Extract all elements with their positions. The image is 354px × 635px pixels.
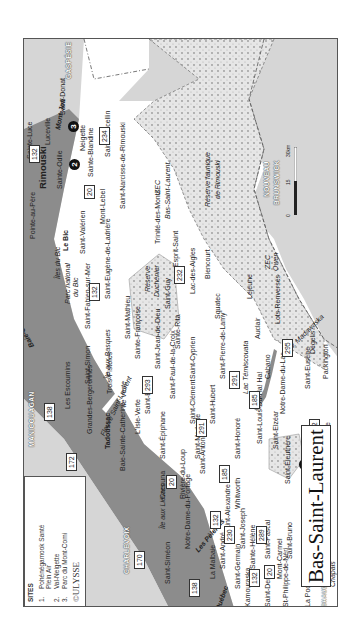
town-saint-elzear: Saint-Elzéar xyxy=(272,411,279,449)
town-baie-sainte-catherine: Baie-Sainte-Catherine xyxy=(119,402,126,471)
town-esprit-saint: Esprit-Saint xyxy=(172,231,179,267)
legend-item-3: Parc du Mont-Comi xyxy=(62,533,69,589)
route-shield-230: 230 xyxy=(224,526,235,544)
scale-tick-30: 30km xyxy=(286,145,291,157)
route-shield-289-b: 289 xyxy=(256,526,267,544)
route-shield-291-b: 291 xyxy=(229,371,240,389)
town-saint-eugene: Saint-Eugène-de-Ladrière xyxy=(104,218,111,299)
route-shield-20: 20 xyxy=(84,185,95,199)
town-biencourt: Biencourt xyxy=(204,249,211,279)
route-shield-234: 234 xyxy=(99,127,110,145)
town-saint-guy: Saint-Guy xyxy=(164,278,171,309)
scale-bar xyxy=(294,147,297,215)
town-saint-paul: Saint-Paul-de-la-Croix xyxy=(169,330,176,399)
town-neigette: Neigette xyxy=(79,125,86,151)
town-saint-antonin: Saint-Antonin xyxy=(199,432,206,474)
town-tadoussac: Tadoussac xyxy=(104,413,111,449)
town-les-escoumins: Les Escoumins xyxy=(64,362,71,409)
town-trois-pistoles: Trois-Pistoles xyxy=(106,352,113,394)
route-shield-20-c: 20 xyxy=(264,565,275,579)
region-label-gaspesie: GASPÉSIE xyxy=(66,42,73,79)
town-packington: Packington xyxy=(322,344,329,379)
town-sainte-blandine: Sainte-Blandine xyxy=(87,128,94,177)
town-trinite: Trinité-des-Monts xyxy=(154,190,161,244)
route-shield-132-b: 132 xyxy=(89,283,100,301)
town-sainte-helene: Sainte-Hélène xyxy=(249,525,256,569)
route-shield-132-d: 132 xyxy=(249,569,260,587)
town-saint-germain: Saint-Germain xyxy=(234,544,241,589)
route-shield-138-b: 138 xyxy=(189,579,200,597)
town-notre-dame-du-lac: Notre-Dame-du-Lac xyxy=(279,352,286,414)
reserve-label-parc-bic-2: du Bic xyxy=(72,278,79,297)
town-saint-donat: Saint-Donat xyxy=(59,78,66,115)
reserve-label-zec-owen-2: Owen xyxy=(272,253,279,271)
town-la-malbaie: La Malbaie xyxy=(209,545,216,579)
scale-tick-0: 0 xyxy=(286,214,291,217)
route-shield-132-c: 132 xyxy=(210,511,221,529)
town-sainte-odile: Sainte-Odile xyxy=(56,150,63,189)
town-saint-jean-de-dieu: Saint-Jean-de-Dieu xyxy=(154,309,161,369)
town-degelis: Dégelis xyxy=(309,331,316,354)
town-st-philippe: St-Philippe-de-Néri xyxy=(282,548,289,607)
town-l-isle-verte: L'Isle-Verte xyxy=(134,399,141,434)
route-shield-170: 170 xyxy=(134,551,145,569)
legend-item-2: Val-Neigette xyxy=(54,554,61,589)
route-shield-232: 232 xyxy=(174,266,185,284)
route-shield-185: 185 xyxy=(219,465,230,483)
town-whitworth: Whitworth xyxy=(234,478,241,509)
map-title: Bas-Saint-Laurent xyxy=(303,429,329,583)
region-label-nouveau-brunswick-2: BRUNSWICK xyxy=(274,160,281,205)
reserve-label-zec-owen: ZEC xyxy=(264,255,271,269)
town-saint-cyprien: Saint-Cyprien xyxy=(189,337,196,379)
region-label-nouveau-brunswick: NOUVEAU xyxy=(264,161,271,197)
water-label-iles-du-bic: Îles du Bic xyxy=(54,247,61,279)
reserve-label-rf-rimouski-2: de Rimouski xyxy=(214,160,221,199)
town-le-bic: Le Bic xyxy=(62,230,69,251)
town-pointe-au-pere: Pointe-au-Père xyxy=(29,192,36,239)
legend-heading: SITES xyxy=(28,583,35,602)
town-saint-valerien: Saint-Valérien xyxy=(79,211,86,254)
town-lejeune: Lejeune xyxy=(246,274,253,299)
town-lots-renverses: Lots-Renversés xyxy=(274,275,281,324)
town-notre-dame-du-portage: Notre-Dame-du-Portage xyxy=(184,474,191,549)
reserve-label-parc-bic: Parc national xyxy=(64,263,71,304)
legend-num-2: 2. xyxy=(54,597,61,602)
legend-item-1b: Plein Air xyxy=(46,565,53,589)
route-shield-20-b: 20 xyxy=(166,475,177,489)
sites-legend: SITES 1. Pohénégamook Santé Plein Air 2.… xyxy=(24,476,86,607)
town-saint-joseph: Saint-Joseph xyxy=(239,508,246,549)
town-saint-hubert: Saint-Hubert xyxy=(209,385,216,424)
route-shield-291: 291 xyxy=(196,419,207,437)
water-label-lac-temiscouata: Lac Témiscouata xyxy=(242,341,249,394)
town-saint-narcisse: Saint-Narcisse-de-Rimouski xyxy=(119,122,126,209)
legend-num-1: 1. xyxy=(39,597,46,602)
town-luceville: Luceville xyxy=(44,118,51,145)
route-shield-295: 295 xyxy=(282,339,293,357)
town-cabano: Cabano xyxy=(264,354,271,379)
reserve-label-duchenier: Réserve xyxy=(144,266,151,292)
region-label-charlevoix: CHARLEVOIX xyxy=(124,526,131,574)
town-saint-epiphane: Saint-Épiphane xyxy=(159,411,166,459)
reserve-label-rf-rimouski: Réserve faunique xyxy=(204,152,211,207)
region-label-manicouagan: MANICOUAGAN xyxy=(29,391,36,447)
map-frame: GASPÉSIE NOUVEAU BRUNSWICK MANICOUAGAN C… xyxy=(23,38,338,607)
reserve-label-zec-bsl-2: Bas-Saint-Laurent xyxy=(164,163,171,219)
site-marker-2[interactable]: 2 xyxy=(69,159,80,170)
reserve-label-duchenier-2: Duchénier xyxy=(153,265,160,297)
site-marker-3[interactable]: 3 xyxy=(68,121,79,132)
town-auclair: Auclair xyxy=(254,318,261,339)
route-shield-185-b: 185 xyxy=(249,391,260,409)
map-title-box: Bas-Saint-Laurent xyxy=(301,425,331,587)
route-shield-172: 172 xyxy=(66,453,77,471)
town-grandes-bergeronnes: Grandes-Bergeronnes xyxy=(86,365,93,434)
town-saint-honore: Saint-Honoré xyxy=(234,418,241,459)
town-saint-simeon: Saint-Siméon xyxy=(164,542,171,584)
publisher-logo: ©ULYSSE xyxy=(72,562,81,602)
town-saint-pierre-de-lamy: Saint-Pierre-de-Lamy xyxy=(219,312,226,379)
scale-tick-15: 15 xyxy=(286,179,291,185)
town-saint-mathieu: Saint-Mathieu xyxy=(124,296,131,339)
town-saint-eleuthere: Saint-Éleuthère xyxy=(284,436,291,484)
legend-num-3: 3. xyxy=(62,597,69,602)
route-shield-132: 132 xyxy=(29,145,40,163)
route-shield-293: 293 xyxy=(142,376,153,394)
